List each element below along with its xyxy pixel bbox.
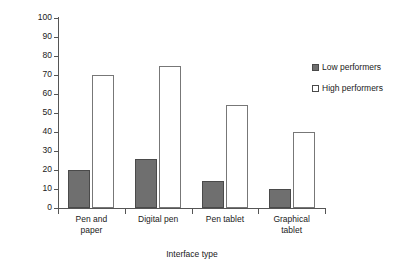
y-axis-tick: 40 bbox=[0, 132, 58, 133]
x-axis-category-label-line: Pen tablet bbox=[192, 214, 259, 225]
x-axis-category-label-line: Digital pen bbox=[125, 214, 192, 225]
bar-low-performers bbox=[269, 189, 291, 208]
y-axis-tick: 60 bbox=[0, 94, 58, 95]
bar-high-performers bbox=[159, 66, 181, 209]
legend-item-label: Low performers bbox=[322, 62, 381, 72]
bar-chart: Percent correct inferences 0102030405060… bbox=[0, 0, 415, 280]
x-axis-category-label: Graphicaltablet bbox=[258, 214, 325, 236]
legend-item: Low performers bbox=[312, 62, 383, 72]
empty-square-icon bbox=[312, 85, 319, 92]
legend-item-label: High performers bbox=[322, 83, 383, 93]
y-axis-tick: 30 bbox=[0, 151, 58, 152]
y-axis-tick-label: 30 bbox=[43, 145, 52, 156]
x-axis-category-label: Pen andpaper bbox=[58, 214, 125, 236]
x-axis-category-label-line: Pen and bbox=[58, 214, 125, 225]
bar-low-performers bbox=[68, 170, 90, 208]
y-axis-tick-label: 90 bbox=[43, 31, 52, 42]
y-axis-tick: 50 bbox=[0, 113, 58, 114]
legend-item: High performers bbox=[312, 83, 383, 93]
x-axis-category-label-line: Graphical bbox=[258, 214, 325, 225]
x-axis-category-label: Digital pen bbox=[125, 214, 192, 225]
y-axis-tick: 90 bbox=[0, 37, 58, 38]
x-axis-category-label-line: tablet bbox=[258, 225, 325, 236]
x-axis-tick-mark bbox=[325, 209, 326, 214]
y-axis-tick: 100 bbox=[0, 18, 58, 19]
bar-high-performers bbox=[92, 75, 114, 208]
y-axis-tick-label: 40 bbox=[43, 126, 52, 137]
bar-high-performers bbox=[226, 105, 248, 208]
y-axis-tick-label: 0 bbox=[47, 202, 52, 213]
bar-low-performers bbox=[202, 181, 224, 208]
y-axis-tick-label: 50 bbox=[43, 107, 52, 118]
bar-high-performers bbox=[293, 132, 315, 208]
x-axis-category-label-line: paper bbox=[58, 225, 125, 236]
plot-area bbox=[58, 18, 325, 208]
x-axis-title: Interface type bbox=[58, 249, 326, 259]
y-axis-tick: 20 bbox=[0, 170, 58, 171]
y-axis-tick-label: 100 bbox=[38, 12, 52, 23]
filled-square-icon bbox=[312, 64, 319, 71]
y-axis-tick: 0 bbox=[0, 208, 58, 209]
y-axis-tick: 70 bbox=[0, 75, 58, 76]
y-axis-tick-label: 60 bbox=[43, 88, 52, 99]
y-axis-tick: 10 bbox=[0, 189, 58, 190]
y-axis-tick-label: 70 bbox=[43, 69, 52, 80]
y-axis-tick-label: 20 bbox=[43, 164, 52, 175]
y-axis-tick: 80 bbox=[0, 56, 58, 57]
chart-legend: Low performersHigh performers bbox=[312, 62, 383, 104]
y-axis-tick-label: 80 bbox=[43, 50, 52, 61]
y-axis-tick-label: 10 bbox=[43, 183, 52, 194]
bar-low-performers bbox=[135, 159, 157, 208]
x-axis-category-label: Pen tablet bbox=[192, 214, 259, 225]
